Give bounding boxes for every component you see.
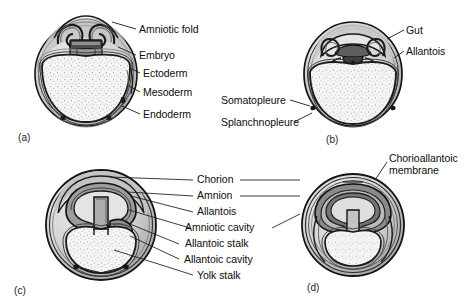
label-splanchnopleure: Splanchnopleure — [221, 117, 299, 129]
label-gut: Gut — [406, 25, 423, 37]
label-chorioallantoic-membrane: Chorioallantoic membrane — [389, 152, 458, 176]
panel-a-letter: (a) — [18, 132, 31, 143]
label-ectoderm: Ectoderm — [143, 68, 188, 80]
panel-b: (b) — [297, 12, 412, 134]
label-allantois-b: Allantois — [406, 46, 445, 58]
label-allantois-c: Allantois — [197, 206, 236, 218]
panel-a: (a) — [28, 8, 148, 133]
label-chorioallantoic-line1: Chorioallantoic — [389, 152, 458, 164]
panel-d: (d) — [299, 170, 407, 282]
label-allantoic-cavity: Allantoic cavity — [184, 254, 253, 266]
label-amniotic-cavity: Amniotic cavity — [185, 222, 254, 234]
panel-c-illustration — [44, 163, 158, 287]
panel-c-letter: (c) — [14, 285, 26, 296]
label-mesoderm: Mesoderm — [143, 87, 192, 99]
label-embryo: Embryo — [139, 50, 175, 62]
label-amniotic-fold: Amniotic fold — [139, 24, 198, 36]
figure-amniote-membranes: (a) Amniotic fold Embryo Ectoderm Mesode… — [0, 0, 473, 307]
panel-b-letter: (b) — [326, 134, 339, 145]
label-allantoic-stalk: Allantoic stalk — [185, 238, 248, 250]
label-somatopleure: Somatopleure — [221, 95, 286, 107]
panel-d-illustration — [299, 170, 407, 282]
panel-a-illustration — [28, 8, 148, 133]
label-chorioallantoic-line2: membrane — [389, 164, 439, 176]
panel-d-letter: (d) — [307, 282, 320, 293]
label-endoderm: Endoderm — [143, 109, 191, 121]
label-chorion: Chorion — [197, 174, 233, 186]
panel-b-illustration — [297, 12, 412, 134]
panel-c: (c) — [44, 163, 158, 287]
label-yolk-stalk: Yolk stalk — [197, 270, 240, 282]
label-amnion: Amnion — [197, 190, 232, 202]
